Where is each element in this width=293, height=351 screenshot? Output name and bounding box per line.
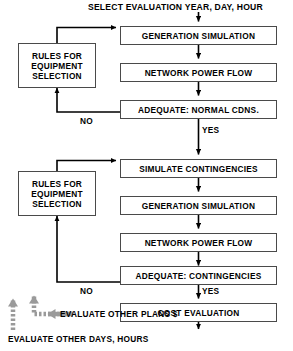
node-network-power-flow-2: NETWORK POWER FLOW — [120, 233, 277, 252]
rules-2-line-2: EQUIPMENT — [31, 189, 83, 199]
flowchart-diagram: SELECT EVALUATION YEAR, DAY, HOUR GENERA… — [0, 0, 293, 351]
edge-label-yes-1: YES — [202, 125, 219, 135]
edge-rules1-to-gen1 — [57, 28, 116, 44]
rules-2-line-1: RULES FOR — [32, 179, 82, 189]
rules-1-line-3: SELECTION — [32, 71, 82, 81]
edge-no-loop-1 — [57, 88, 120, 112]
rules-1-line-1: RULES FOR — [32, 51, 82, 61]
node-generation-simulation-2: GENERATION SIMULATION — [120, 196, 277, 215]
footer-evaluate-other-plans: EVALUATE OTHER PLANS $ — [60, 309, 178, 319]
edge-label-no-1: NO — [80, 116, 93, 126]
page-title: SELECT EVALUATION YEAR, DAY, HOUR — [88, 2, 263, 12]
edge-rules2-to-sim — [57, 161, 116, 172]
edge-label-yes-2: YES — [202, 286, 219, 296]
footer-evaluate-other-days-hours: EVALUATE OTHER DAYS, HOURS — [8, 334, 149, 344]
rules-1-line-2: EQUIPMENT — [31, 61, 83, 71]
node-generation-simulation-1: GENERATION SIMULATION — [120, 26, 277, 45]
node-adequate-normal-cdns: ADEQUATE: NORMAL CDNS. — [120, 100, 277, 119]
edge-no-loop-2 — [57, 216, 120, 282]
node-simulate-contingencies: SIMULATE CONTINGENCIES — [120, 159, 277, 178]
rules-2-line-3: SELECTION — [32, 199, 82, 209]
node-rules-for-equipment-selection-1: RULES FOR EQUIPMENT SELECTION — [18, 43, 96, 88]
edge-label-no-2: NO — [80, 286, 93, 296]
node-network-power-flow-1: NETWORK POWER FLOW — [120, 63, 277, 82]
node-adequate-contingencies: ADEQUATE: CONTINGENCIES — [120, 266, 277, 285]
node-rules-for-equipment-selection-2: RULES FOR EQUIPMENT SELECTION — [18, 171, 96, 216]
